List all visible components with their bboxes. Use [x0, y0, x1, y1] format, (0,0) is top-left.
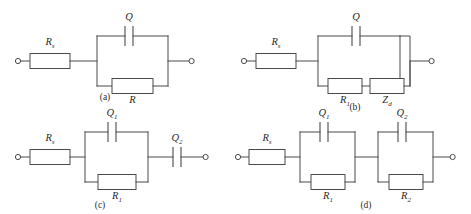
panel-a-capacitor-label: Q — [125, 11, 133, 22]
panel-a-left-terminal — [15, 58, 20, 63]
panel-b: Rs Q R1 Zd (b) — [241, 11, 434, 113]
panel-d-block2-capacitor-label: Q2 — [396, 107, 408, 121]
panel-d-caption: (d) — [360, 200, 371, 211]
panel-a-parallel-resistor-body — [112, 79, 153, 94]
panel-b-resistor-r1-label: R1 — [339, 94, 350, 108]
panel-c-capacitor-q1-label: Q1 — [106, 107, 117, 121]
panel-c-parallel-resistor-label: R1 — [111, 190, 122, 204]
panel-c-right-terminal — [203, 154, 208, 159]
panel-a: Rs Q R (a) — [15, 11, 194, 105]
panel-b-left-terminal — [241, 58, 246, 63]
panel-b-series-resistor-body — [256, 54, 296, 69]
panel-b-impedance-zd-label: Zd — [382, 94, 392, 108]
panel-d-block2-resistor-body — [389, 175, 423, 190]
panel-c-series-resistor-body — [30, 150, 70, 165]
panel-d: Rs Q1 R1 Q2 R2 (d) — [235, 107, 455, 211]
panel-b-capacitor-label: Q — [352, 11, 360, 22]
circuit-figure: Rs Q R (a) Rs Q — [0, 0, 471, 214]
panel-c-caption: (c) — [95, 200, 106, 211]
panel-a-series-resistor-body — [30, 54, 70, 69]
panel-d-block1-resistor-label: R1 — [322, 190, 333, 204]
panel-d-series-resistor-label: Rs — [261, 132, 271, 146]
panel-d-left-terminal — [235, 154, 240, 159]
panel-d-block1-resistor-body — [311, 175, 345, 190]
panel-c-series-resistor-label: Rs — [44, 132, 54, 146]
panel-b-impedance-zd-body — [370, 79, 404, 94]
panel-d-block1-capacitor-label: Q1 — [318, 107, 329, 121]
panel-c-parallel-resistor-body — [98, 175, 136, 190]
panel-d-series-resistor-body — [249, 150, 285, 165]
panel-b-series-resistor-label: Rs — [270, 36, 280, 50]
panel-c-left-terminal — [15, 154, 20, 159]
panel-d-block2-resistor-label: R2 — [400, 190, 411, 204]
panel-c: Rs Q1 R1 Q2 (c) — [15, 107, 208, 211]
panel-b-right-terminal — [429, 58, 434, 63]
panel-a-series-resistor-label: Rs — [44, 36, 54, 50]
panel-a-caption: (a) — [100, 92, 111, 103]
panel-a-right-terminal — [189, 58, 194, 63]
panel-b-resistor-r1-body — [328, 79, 362, 94]
panel-c-capacitor-q2-label: Q2 — [171, 132, 183, 146]
panel-b-caption: (b) — [349, 102, 360, 113]
panel-d-right-terminal — [450, 154, 455, 159]
panel-a-parallel-resistor-label: R — [128, 94, 136, 105]
